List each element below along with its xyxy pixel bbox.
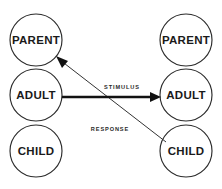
right-child-label: CHILD (168, 145, 205, 157)
node-right-adult[interactable]: ADULT (160, 69, 212, 121)
right-person-column: PARENT ADULT CHILD (160, 14, 212, 177)
node-right-parent[interactable]: PARENT (160, 14, 212, 66)
diagram-canvas: PARENT ADULT CHILD PARENT ADULT (0, 0, 222, 189)
node-right-child[interactable]: CHILD (160, 125, 212, 177)
right-parent-label: PARENT (162, 34, 210, 46)
response-label: RESPONSE (91, 126, 129, 132)
left-adult-label: ADULT (16, 89, 56, 101)
left-parent-label: PARENT (12, 34, 60, 46)
right-adult-label: ADULT (166, 89, 206, 101)
transactional-analysis-diagram: PARENT ADULT CHILD PARENT ADULT (0, 0, 222, 189)
stimulus-arrowhead (150, 92, 161, 102)
stimulus-label: STIMULUS (104, 84, 140, 90)
left-child-label: CHILD (18, 145, 55, 157)
response-arrowhead (56, 56, 68, 68)
node-left-parent[interactable]: PARENT (10, 14, 62, 66)
response-transaction-arrow[interactable]: RESPONSE (56, 56, 166, 142)
node-left-child[interactable]: CHILD (10, 125, 62, 177)
left-person-column: PARENT ADULT CHILD (10, 14, 62, 177)
node-left-adult[interactable]: ADULT (10, 69, 62, 121)
